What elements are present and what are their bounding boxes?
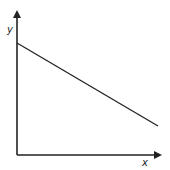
chart: y x	[0, 0, 170, 170]
y-axis-label: y	[6, 24, 14, 35]
x-axis-label: x	[141, 157, 148, 168]
data-line	[17, 43, 158, 126]
